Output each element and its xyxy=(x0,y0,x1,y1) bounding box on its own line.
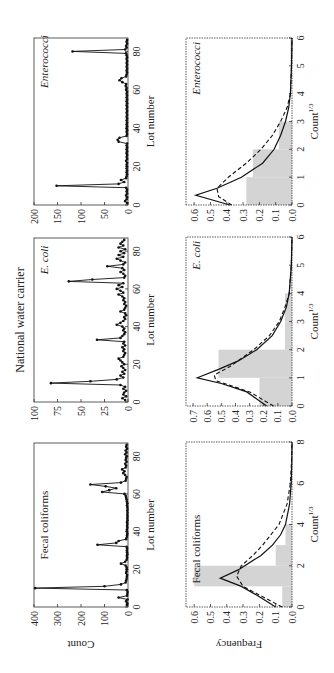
data-point xyxy=(121,346,124,349)
panel-label: Fecal coliforms xyxy=(190,515,202,584)
data-point xyxy=(122,282,125,285)
histogram-bar xyxy=(253,149,292,177)
data-point xyxy=(96,338,99,341)
x-tick-label: 6 xyxy=(295,481,306,486)
data-point xyxy=(124,301,127,304)
data-point xyxy=(115,378,118,381)
y-tick-label: 0.6 xyxy=(189,611,200,624)
y-tick-label: 0.2 xyxy=(254,209,265,222)
chart-panel-bottom-right: 01234560.00.10.20.30.40.50.6Count1/3Ente… xyxy=(186,36,320,222)
x-tick-label: 5 xyxy=(295,263,306,268)
data-point xyxy=(119,289,122,292)
x-tick-label: 60 xyxy=(131,284,142,294)
data-point xyxy=(108,489,111,492)
y-tick-label: 50 xyxy=(99,209,110,219)
data-point xyxy=(120,562,123,565)
data-point xyxy=(124,331,127,334)
data-point xyxy=(124,474,127,477)
data-point xyxy=(89,483,92,486)
data-point xyxy=(125,186,128,189)
data-point xyxy=(121,295,124,298)
data-point xyxy=(115,257,118,260)
y-tick-label: 0.3 xyxy=(238,611,249,624)
data-point xyxy=(125,444,128,447)
data-point xyxy=(123,181,126,184)
histogram-bar xyxy=(285,525,292,546)
panel-label: E. coli xyxy=(190,241,202,271)
data-point xyxy=(116,138,119,141)
data-point xyxy=(117,293,120,296)
data-point xyxy=(126,598,129,601)
x-tick-label: 40 xyxy=(131,123,142,133)
data-point xyxy=(121,468,124,471)
panels-group: 0204060800100200300400Lot numberCountFec… xyxy=(29,35,321,651)
data-point xyxy=(121,335,124,338)
data-point xyxy=(121,267,124,270)
histogram-bar xyxy=(282,586,292,607)
data-point xyxy=(123,348,126,351)
data-point xyxy=(115,542,118,545)
data-point xyxy=(125,389,128,392)
data-point xyxy=(124,274,127,277)
data-point xyxy=(119,359,122,362)
histogram-bar xyxy=(276,545,292,566)
data-point xyxy=(123,252,126,255)
data-point xyxy=(122,320,125,323)
data-point xyxy=(122,263,125,266)
data-point xyxy=(120,583,123,586)
x-axis-label: Lot number xyxy=(144,95,156,147)
x-tick-label: 6 xyxy=(295,235,306,240)
x-tick-label: 3 xyxy=(295,319,306,324)
panel-label: Enterococci xyxy=(38,35,50,89)
y-tick-label: 100 xyxy=(76,209,87,224)
y-tick-label: 0.4 xyxy=(221,611,232,624)
x-tick-label: 2 xyxy=(295,563,306,568)
y-tick-label: 75 xyxy=(52,406,63,416)
data-point xyxy=(124,399,127,402)
y-tick-label: 0.3 xyxy=(244,410,255,423)
y-tick-label: 200 xyxy=(76,611,87,626)
data-point xyxy=(89,380,92,383)
data-point xyxy=(123,297,126,300)
data-point xyxy=(101,491,104,494)
data-point xyxy=(115,323,118,326)
x-tick-label: 80 xyxy=(131,46,142,56)
y-tick-label: 0 xyxy=(123,406,134,411)
y-tick-label: 0.2 xyxy=(258,410,269,423)
data-point xyxy=(120,481,123,484)
data-point xyxy=(122,376,125,379)
data-point xyxy=(123,239,126,242)
data-point xyxy=(124,248,127,251)
x-axis-label: Lot number xyxy=(144,499,156,551)
y-tick-label: 50 xyxy=(76,406,87,416)
histogram-bar xyxy=(259,378,292,406)
y-tick-label: 0.4 xyxy=(221,209,232,222)
figure-title: National water carrier xyxy=(13,267,27,372)
data-point xyxy=(124,312,127,315)
data-point xyxy=(124,386,127,389)
data-point xyxy=(50,382,53,385)
data-point xyxy=(117,246,120,249)
count-series-line xyxy=(57,40,128,203)
x-tick-label: 4 xyxy=(295,522,306,527)
data-point xyxy=(119,374,122,377)
data-point xyxy=(122,244,125,247)
data-point xyxy=(125,545,128,548)
data-point xyxy=(124,261,127,264)
data-point xyxy=(117,596,120,599)
data-point xyxy=(119,322,122,325)
x-tick-label: 3 xyxy=(295,119,306,124)
y-tick-label: 0.5 xyxy=(216,410,227,423)
x-axis-label: Count1/3 xyxy=(307,103,320,139)
panel-label: E. coli xyxy=(38,246,50,276)
data-point xyxy=(121,325,124,328)
data-point xyxy=(115,288,118,291)
data-point xyxy=(91,278,94,281)
y-tick-label: 0.0 xyxy=(287,611,298,624)
data-point xyxy=(125,395,128,398)
x-tick-label: 4 xyxy=(295,91,306,96)
data-point xyxy=(126,39,129,42)
data-point xyxy=(125,305,128,308)
x-tick-label: 0 xyxy=(131,203,142,208)
data-point xyxy=(124,352,127,355)
